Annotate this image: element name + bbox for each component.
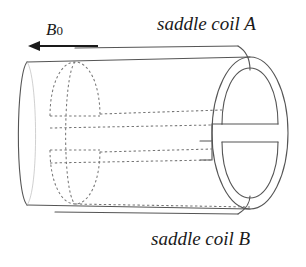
saddle-coil-b-label: saddle coil B bbox=[151, 229, 250, 248]
cylinder-left-end-arc bbox=[18, 62, 27, 205]
coil-a-right-arc bbox=[222, 68, 278, 124]
coil-b-bottom-wire-right-return bbox=[238, 196, 250, 214]
coil-b-inner-wire-hidden bbox=[100, 149, 212, 152]
cylinder-left-end-arc-back bbox=[27, 62, 36, 205]
saddle-coil-diagram bbox=[0, 0, 306, 267]
cylinder-right-end-ellipse bbox=[212, 57, 288, 209]
b0-subscript: 0 bbox=[56, 23, 63, 38]
coil-b-outer-wire-hidden bbox=[50, 160, 212, 163]
coil-b-left-arc-hidden bbox=[50, 150, 100, 204]
coil-a-inner-wire-hidden bbox=[100, 110, 222, 114]
cylinder-left-ellipse-hidden-arc bbox=[66, 62, 75, 204]
b0-field-label: B0 bbox=[46, 21, 63, 38]
saddle-coil-a-label: saddle coil A bbox=[157, 14, 256, 33]
coil-a-left-arc-hidden bbox=[50, 62, 100, 116]
coil-a-step-connector bbox=[212, 124, 222, 141]
coil-b-step-connector bbox=[200, 142, 212, 160]
coil-b-right-arc bbox=[222, 142, 278, 198]
coil-a-top-long-wire bbox=[75, 46, 238, 48]
figure-canvas: B0 saddle coil A saddle coil B bbox=[0, 0, 306, 267]
coil-b-bottom-long-wire bbox=[55, 212, 238, 214]
b0-arrow-head bbox=[28, 41, 40, 51]
coil-a-outer-wire-hidden bbox=[50, 125, 212, 128]
b0-arrow-group bbox=[28, 41, 98, 51]
b0-symbol: B bbox=[46, 20, 56, 39]
cylinder-top-edge bbox=[27, 57, 250, 62]
